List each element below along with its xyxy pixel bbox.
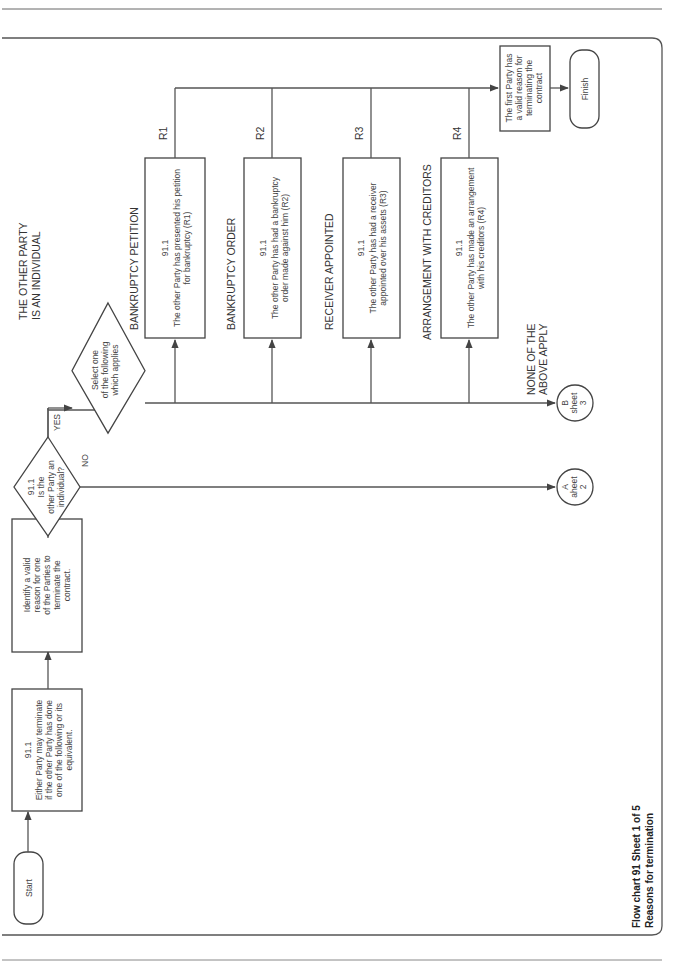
svg-text:contract.: contract. bbox=[62, 569, 72, 602]
heading-r4: ARRANGEMENT WITH CREDITORS bbox=[421, 164, 433, 340]
svg-text:of the Parties to: of the Parties to bbox=[42, 555, 52, 615]
svg-text:equivalent.: equivalent. bbox=[64, 729, 74, 770]
section-label-line2: IS AN INDIVIDUAL bbox=[30, 231, 42, 320]
code-r4: R4 bbox=[451, 126, 463, 140]
svg-text:3: 3 bbox=[578, 400, 588, 405]
svg-text:The first Party has: The first Party has bbox=[504, 54, 514, 123]
svg-text:terminate the: terminate the bbox=[52, 560, 62, 610]
svg-text:which applies: which applies bbox=[110, 344, 120, 396]
svg-text:one of the following or its: one of the following or its bbox=[54, 703, 64, 797]
code-r3: R3 bbox=[353, 126, 365, 140]
heading-r1: BANKRUPTCY PETITION bbox=[128, 207, 140, 330]
none-apply-line2: ABOVE APPLY bbox=[537, 323, 549, 395]
svg-text:Either Party may terminate: Either Party may terminate bbox=[34, 699, 44, 800]
heading-r2: BANKRUPTCY ORDER bbox=[225, 217, 237, 330]
svg-text:with his creditors (R4): with his creditors (R4) bbox=[476, 207, 486, 290]
reason-box-r2: 91.1 The other Party has had a bankruptc… bbox=[225, 126, 301, 338]
connector-a-sheet-2[interactable]: A aheet 2 bbox=[557, 469, 593, 505]
identify-box: Identify a valid reason for one of the P… bbox=[12, 519, 82, 652]
finish-label: Finish bbox=[580, 77, 590, 100]
caption-title: Flow chart 91 Sheet 1 of 5 bbox=[631, 805, 642, 928]
svg-text:a valid reason for: a valid reason for bbox=[514, 55, 524, 120]
svg-text:91.1: 91.1 bbox=[160, 239, 170, 256]
code-r1: R1 bbox=[157, 126, 169, 140]
either-party-box: 91.1 Either Party may terminate if the o… bbox=[12, 689, 82, 811]
flowchart-canvas: Start 91.1 Either Party may terminate if… bbox=[0, 0, 691, 975]
code-r2: R2 bbox=[254, 126, 266, 140]
svg-text:terminating the: terminating the bbox=[524, 60, 534, 116]
valid-reason-box: The first Party has a valid reason for t… bbox=[500, 46, 550, 131]
svg-text:if the other Party has done: if the other Party has done bbox=[44, 700, 54, 800]
svg-text:individual?: individual? bbox=[56, 467, 66, 507]
start-terminal: Start bbox=[14, 852, 43, 924]
svg-text:The other Party has presented: The other Party has presented his petiti… bbox=[172, 169, 182, 327]
reason-box-r4: 91.1 The other Party has made an arrange… bbox=[421, 126, 498, 340]
no-label: NO bbox=[80, 454, 90, 467]
svg-text:of the following: of the following bbox=[100, 341, 110, 398]
svg-text:for bankruptcy (R1): for bankruptcy (R1) bbox=[182, 211, 192, 284]
reason-box-r1: 91.1 The other Party has presented his p… bbox=[128, 126, 205, 338]
either-party-clause: 91.1 bbox=[23, 741, 33, 758]
svg-text:The other Party has made an ar: The other Party has made an arrangement bbox=[466, 167, 476, 328]
finish-terminal: Finish bbox=[570, 50, 599, 128]
svg-text:Is the: Is the bbox=[36, 476, 46, 497]
svg-text:Select one: Select one bbox=[90, 350, 100, 390]
caption-subtitle: Reasons for termination bbox=[644, 813, 655, 928]
heading-r3: RECEIVER APPOINTED bbox=[323, 213, 335, 330]
svg-text:91.1: 91.1 bbox=[258, 239, 268, 256]
svg-text:91.1: 91.1 bbox=[356, 239, 366, 256]
svg-text:appointed over his assets (R3): appointed over his assets (R3) bbox=[378, 190, 388, 305]
svg-text:other Party an: other Party an bbox=[46, 460, 56, 514]
svg-text:91.1: 91.1 bbox=[454, 239, 464, 256]
svg-text:contract: contract bbox=[534, 72, 544, 103]
section-label-line1: THE OTHER PARTY bbox=[17, 222, 29, 320]
svg-text:2: 2 bbox=[578, 484, 588, 489]
svg-text:reason for one: reason for one bbox=[32, 557, 42, 612]
reason-box-r3: 91.1 The other Party has had a receiver … bbox=[323, 126, 400, 338]
svg-text:order made against him (R2): order made against him (R2) bbox=[280, 194, 290, 302]
svg-text:The other Party has had a rece: The other Party has had a receiver bbox=[368, 182, 378, 313]
yes-label: YES bbox=[52, 414, 62, 431]
start-label: Start bbox=[24, 878, 34, 897]
svg-text:91.1: 91.1 bbox=[26, 478, 36, 495]
none-apply-line1: NONE OF THE bbox=[525, 323, 537, 395]
svg-text:The other Party has had a bank: The other Party has had a bankruptcy bbox=[270, 176, 280, 319]
connector-b-sheet-3[interactable]: B sheet 3 bbox=[557, 385, 593, 421]
svg-text:Identify a valid: Identify a valid bbox=[22, 558, 32, 613]
